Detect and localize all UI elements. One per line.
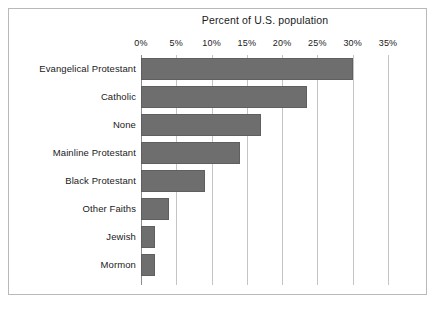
bar	[141, 58, 353, 80]
y-axis-category-labels: Evangelical ProtestantCatholicNoneMainli…	[16, 55, 136, 285]
gridline	[388, 55, 389, 285]
bar	[141, 170, 205, 192]
bar	[141, 198, 169, 220]
y-category-label: None	[113, 114, 136, 136]
chart-title: Percent of U.S. population	[140, 14, 390, 26]
x-axis-tick-labels: 0%5%10%15%20%25%30%35%	[0, 38, 436, 52]
x-tick-label: 25%	[308, 38, 327, 48]
x-tick-label: 15%	[238, 38, 257, 48]
x-tick-label: 0%	[134, 38, 147, 48]
bar	[141, 114, 261, 136]
x-tick-label: 5%	[170, 38, 183, 48]
y-category-label: Catholic	[101, 86, 136, 108]
y-category-label: Mainline Protestant	[53, 142, 136, 164]
plot-area	[141, 55, 388, 285]
y-category-label: Evangelical Protestant	[39, 58, 136, 80]
bar	[141, 142, 240, 164]
y-category-label: Mormon	[101, 254, 136, 276]
x-tick-label: 35%	[379, 38, 398, 48]
x-tick-label: 30%	[343, 38, 362, 48]
figure-canvas: Percent of U.S. population 0%5%10%15%20%…	[0, 0, 436, 313]
x-tick-label: 10%	[202, 38, 221, 48]
y-category-label: Other Faiths	[83, 198, 136, 220]
x-tick-label: 20%	[273, 38, 292, 48]
y-category-label: Black Protestant	[65, 170, 136, 192]
bar	[141, 86, 307, 108]
y-category-label: Jewish	[106, 226, 136, 248]
bar	[141, 254, 155, 276]
bar-series	[141, 55, 388, 285]
bar	[141, 226, 155, 248]
